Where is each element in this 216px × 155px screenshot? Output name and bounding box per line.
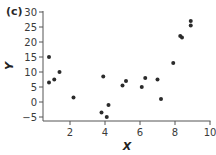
x-tick-label: 2: [67, 127, 73, 138]
y-tick-label: −5: [22, 112, 37, 123]
x-tick-label: 4: [102, 127, 108, 138]
data-point: [72, 96, 76, 100]
data-point: [140, 85, 144, 89]
data-point: [47, 55, 51, 59]
data-point: [189, 24, 193, 28]
data-point: [58, 70, 62, 74]
data-point: [100, 111, 104, 115]
x-tick-label: 8: [172, 127, 178, 138]
data-point: [156, 78, 160, 82]
data-point: [52, 78, 56, 82]
y-tick-label: 20: [24, 37, 37, 48]
data-point: [47, 81, 51, 85]
data-point: [171, 61, 175, 65]
y-tick-label: 15: [24, 52, 37, 63]
x-axis-title: X: [122, 140, 132, 153]
y-tick-label: 30: [24, 7, 37, 18]
data-point: [143, 76, 147, 80]
data-point: [121, 84, 125, 88]
y-tick-label: 25: [24, 22, 37, 33]
data-point: [124, 79, 128, 83]
y-axis-title: Y: [3, 61, 16, 70]
x-tick-label: 6: [137, 127, 143, 138]
y-tick-label: 10: [24, 67, 37, 78]
y-tick-label: 0: [31, 97, 37, 108]
x-tick-label: 10: [204, 127, 216, 138]
data-point: [180, 36, 184, 40]
data-point: [159, 97, 163, 101]
data-point: [189, 19, 193, 23]
scatter-chart: −5051015202530246810XY: [0, 0, 216, 155]
data-point: [101, 75, 105, 79]
data-point: [107, 103, 111, 107]
y-tick-label: 5: [31, 82, 37, 93]
data-point: [105, 115, 109, 119]
